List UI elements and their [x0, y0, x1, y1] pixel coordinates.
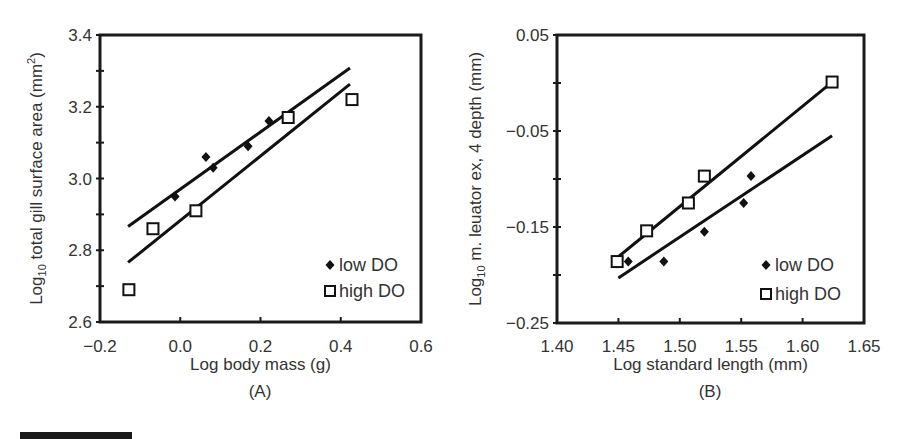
panel-label: (B): [699, 382, 722, 401]
data-point-low-do: [659, 257, 668, 267]
fit-line-low-do: [128, 68, 350, 227]
x-tick-label: 1.45: [602, 337, 635, 356]
x-tick-label: 1.55: [725, 337, 758, 356]
data-point-high-do: [612, 256, 623, 267]
x-tick-label: 0.2: [249, 337, 273, 356]
y-tick-label: −0.05: [506, 122, 549, 141]
x-tick-label: 1.65: [847, 337, 880, 356]
legend-diamond-icon: [762, 260, 771, 270]
y-tick-label: 2.8: [68, 241, 92, 260]
data-point-high-do: [190, 205, 201, 216]
y-label-suffix: ): [27, 52, 46, 58]
fit-line-high-do: [128, 84, 350, 262]
chart-panel-a: −0.20.00.20.40.62.62.83.03.23.4Log body …: [25, 26, 433, 401]
y-tick-label: 3.0: [68, 170, 92, 189]
scale-bar: [20, 432, 132, 439]
data-point-low-do: [624, 257, 633, 267]
x-tick-label: 1.50: [663, 337, 696, 356]
legend-label-high-do: high DO: [339, 281, 405, 301]
y-tick-label: 3.4: [68, 26, 92, 45]
data-point-high-do: [827, 77, 838, 88]
y-label-subscript: 10: [36, 264, 48, 276]
data-point-low-do: [747, 171, 756, 181]
y-tick-label: 0.05: [516, 26, 549, 45]
chart-panel-b: 1.401.451.501.551.601.65−0.25−0.15−0.050…: [466, 26, 881, 401]
y-tick-label: −0.25: [506, 314, 549, 333]
data-point-low-do: [171, 191, 180, 201]
y-tick-label: −0.15: [506, 218, 549, 237]
x-tick-label: 1.40: [540, 337, 573, 356]
data-point-high-do: [699, 171, 710, 182]
x-axis-label: Log standard length (mm): [613, 355, 808, 374]
legend-diamond-icon: [326, 260, 335, 270]
x-tick-label: 1.60: [786, 337, 819, 356]
y-label-main: m. leuator ex, 4 depth (mm): [466, 52, 485, 266]
y-tick-label: 3.2: [68, 98, 92, 117]
data-point-low-do: [700, 227, 709, 237]
data-point-high-do: [641, 225, 652, 236]
legend-square-icon: [325, 286, 335, 296]
x-tick-label: 0.4: [329, 337, 353, 356]
data-point-high-do: [346, 94, 357, 105]
x-tick-label: 0.6: [409, 337, 433, 356]
data-point-high-do: [147, 223, 158, 234]
y-label-main: total gill surface area (mm: [27, 64, 46, 264]
y-axis-label: Log10 total gill surface area (mm2): [25, 52, 48, 305]
legend-label-high-do: high DO: [775, 284, 841, 304]
y-axis-label: Log10 m. leuator ex, 4 depth (mm): [466, 52, 487, 306]
data-point-high-do: [683, 198, 694, 209]
y-label-prefix: Log: [466, 278, 485, 306]
x-axis-label: Log body mass (g): [190, 355, 331, 374]
y-tick-label: 2.6: [68, 313, 92, 332]
x-tick-label: −0.2: [83, 337, 117, 356]
plot-frame: [100, 35, 421, 322]
legend-square-icon: [761, 289, 771, 299]
x-tick-label: 0.0: [168, 337, 192, 356]
data-point-low-do: [201, 152, 210, 162]
legend-label-low-do: low DO: [775, 255, 834, 275]
data-point-low-do: [739, 198, 748, 208]
data-point-high-do: [123, 284, 134, 295]
figure-canvas: −0.20.00.20.40.62.62.83.03.23.4Log body …: [0, 0, 901, 439]
y-label-subscript: 10: [475, 265, 487, 277]
legend-label-low-do: low DO: [339, 255, 398, 275]
panel-label: (A): [249, 382, 272, 401]
data-point-high-do: [283, 112, 294, 123]
y-label-prefix: Log: [27, 276, 46, 304]
